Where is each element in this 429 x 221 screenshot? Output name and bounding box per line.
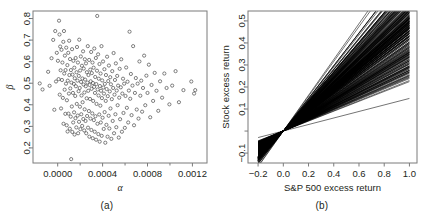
scatter-point (62, 122, 65, 125)
scatter-point (94, 115, 97, 118)
x-tick-label: 0.4 (327, 168, 340, 179)
scatter-point (72, 121, 75, 124)
scatter-point (168, 103, 171, 106)
scatter-point (118, 96, 121, 99)
scatter-point (64, 112, 67, 115)
y-tick-label: 0.5 (21, 77, 32, 90)
x-tick-label: 0.2 (302, 168, 315, 179)
scatter-point (91, 81, 94, 84)
scatter-point (144, 104, 147, 107)
x-tick-label: 0.0008 (133, 168, 162, 179)
scatter-point (100, 45, 103, 48)
scatter-point (107, 64, 110, 67)
scatter-point (79, 128, 82, 131)
scatter-point (90, 128, 93, 131)
scatter-point (97, 94, 100, 97)
scatter-point (120, 130, 123, 133)
scatter-point (74, 94, 77, 97)
scatter-point (90, 71, 93, 74)
scatter-point (127, 121, 130, 124)
scatter-point (69, 87, 72, 90)
scatter-point (57, 78, 60, 81)
scatter-point (75, 126, 78, 129)
scatter-point (62, 40, 65, 43)
scatter-point (112, 86, 115, 89)
scatter-point (115, 89, 118, 92)
scatter-point (68, 39, 71, 42)
scatter-point (102, 127, 105, 130)
scatter-point (115, 126, 118, 129)
scatter-point (66, 64, 69, 67)
scatter-point (114, 113, 117, 116)
scatter-point (104, 73, 107, 76)
scatter-point (75, 45, 78, 48)
scatter-point (103, 68, 106, 71)
scatter-point (114, 62, 117, 65)
x-tick-label: 0.6 (352, 168, 365, 179)
scatter-point (132, 45, 135, 48)
scatter-point (92, 99, 95, 102)
scatter-point (38, 82, 41, 85)
scatter-point (55, 51, 58, 54)
scatter-point (85, 132, 88, 135)
scatter-point (106, 135, 109, 138)
y-tick-label: 0.4 (21, 98, 32, 111)
scatter-point (97, 53, 100, 56)
scatter-point (94, 138, 97, 141)
scatter-point (190, 80, 193, 83)
scatter-point (60, 48, 63, 51)
scatter-point (111, 70, 114, 73)
scatter-point (137, 117, 140, 120)
scatter-point (194, 89, 197, 92)
scatter-point (105, 55, 108, 58)
scatter-point (80, 113, 83, 116)
scatter-point (132, 124, 135, 127)
scatter-point (126, 80, 129, 83)
scatter-point (95, 82, 98, 85)
scatter-point (101, 79, 104, 82)
scatter-point (136, 82, 139, 85)
scatter-point (72, 59, 75, 62)
scatter-point (91, 112, 94, 115)
scatter-point (107, 79, 110, 82)
y-tick-label: 0.1 (236, 102, 247, 115)
scatter-point (74, 85, 77, 88)
y-tick-label: 0.2 (21, 141, 32, 154)
scatter-point (77, 132, 80, 135)
scatter-point (63, 54, 66, 57)
scatter-point (81, 101, 84, 104)
scatter-point (129, 97, 132, 100)
scatter-point (88, 97, 91, 100)
scatter-point (48, 84, 51, 87)
scatter-point (146, 91, 149, 94)
panel-b-svg: −0.20.00.20.40.60.81.0−0.10.10.20.30.40.… (215, 0, 429, 200)
scatter-point (77, 74, 80, 77)
scatter-point (109, 107, 112, 110)
scatter-point (65, 46, 68, 49)
scatter-point (192, 92, 195, 95)
scatter-point (58, 33, 61, 36)
scatter-point (120, 58, 123, 61)
scatter-point (117, 136, 120, 139)
scatter-point (90, 50, 93, 53)
scatter-point (71, 73, 74, 76)
scatter-point (99, 121, 102, 124)
scatter-point (52, 38, 55, 41)
scatter-point (79, 55, 82, 58)
scatter-point (64, 68, 67, 71)
scatter-point (145, 74, 148, 77)
x-tick-label: 0.0004 (88, 168, 117, 179)
scatter-point (92, 66, 95, 69)
scatter-point (98, 62, 101, 65)
scatter-point (113, 93, 116, 96)
scatter-point (81, 124, 84, 127)
x-axis-label: S&P 500 excess return (284, 182, 381, 193)
scatter-point (67, 51, 70, 54)
scatter-point (102, 86, 105, 89)
two-panel-figure: 0.00000.00040.00080.00120.20.30.40.50.60… (0, 0, 429, 221)
scatter-point (82, 67, 85, 70)
y-tick-label: −0.1 (236, 144, 247, 163)
scatter-point (95, 69, 98, 72)
scatter-point (77, 120, 80, 123)
scatter-point (69, 68, 72, 71)
